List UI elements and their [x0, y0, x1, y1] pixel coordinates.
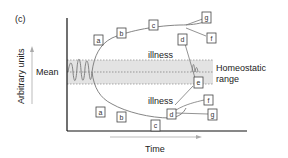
- svg-text:g: g: [205, 14, 209, 22]
- svg-text:c: c: [154, 122, 158, 129]
- svg-text:d: d: [170, 111, 174, 118]
- lower-box-f: f: [204, 95, 213, 105]
- lower-box-b: b: [117, 112, 126, 122]
- range-label-line1: Homeostatic: [216, 63, 267, 73]
- svg-text:a: a: [97, 37, 101, 44]
- upper-box-b: b: [117, 28, 126, 38]
- lower-illness-label: illness: [148, 96, 174, 106]
- lower-d-to-e: [175, 86, 193, 105]
- upper-box-c: c: [149, 20, 158, 30]
- lower-box-c: c: [151, 120, 160, 131]
- svg-text:d: d: [181, 36, 185, 43]
- y-arrowhead-icon: [30, 46, 34, 52]
- svg-text:a: a: [99, 109, 103, 116]
- panel-label: (c): [15, 14, 26, 24]
- lower-d-to-f: [176, 100, 204, 110]
- y-axis-label: Arbitrary units: [16, 48, 26, 104]
- lower-box-e: e: [194, 77, 203, 88]
- svg-text:g: g: [211, 111, 215, 119]
- svg-text:f: f: [208, 97, 210, 104]
- mean-label: Mean: [36, 67, 59, 77]
- upper-box-a: a: [94, 35, 103, 45]
- svg-text:b: b: [120, 30, 124, 37]
- svg-text:f: f: [211, 35, 213, 42]
- homeostasis-diagram: (c) Arbitrary units Mean Homeostatic ran…: [0, 0, 288, 158]
- svg-text:c: c: [152, 22, 156, 29]
- upper-box-f: f: [207, 33, 216, 43]
- svg-text:e: e: [197, 79, 201, 86]
- upper-d-to-f: [186, 28, 206, 36]
- svg-text:b: b: [120, 114, 124, 121]
- x-axis-label: Time: [145, 144, 165, 154]
- upper-box-d: d: [178, 34, 187, 45]
- lower-box-g: g: [208, 109, 217, 120]
- lower-box-a: a: [96, 107, 105, 117]
- upper-box-g: g: [202, 12, 211, 23]
- x-arrowhead-icon: [196, 135, 202, 139]
- lower-box-d: d: [167, 109, 176, 119]
- range-label-line2: range: [216, 74, 239, 84]
- upper-illness-label: illness: [148, 50, 174, 60]
